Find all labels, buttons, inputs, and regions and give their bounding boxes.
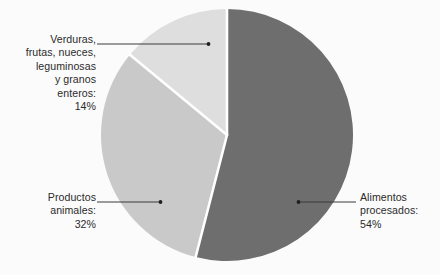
leader-dot-alimentos-procesados [297, 200, 301, 204]
callout-label-productos-animales: Productos animales: 32% [0, 191, 96, 231]
pie-chart-figure: Verduras, frutas, nueces, leguminosas y … [0, 0, 440, 275]
callout-label-alimentos-procesados: Alimentos procesados: 54% [360, 191, 440, 231]
leader-dot-productos-animales [159, 200, 163, 204]
callout-label-verduras-frutas: Verduras, frutas, nueces, leguminosas y … [0, 33, 96, 113]
leader-dot-verduras [207, 42, 211, 46]
